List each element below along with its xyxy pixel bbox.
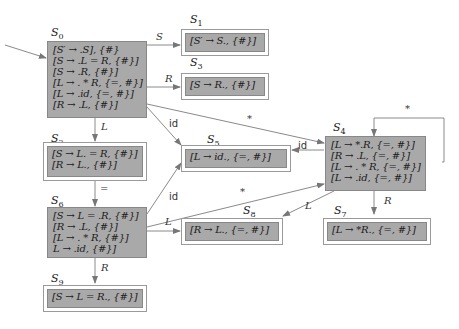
state-s8: [R → L., {=, #}] [181,218,283,245]
item: [S → .R, {#}] [53,66,141,77]
item: [S → .L = R, {#}] [53,55,141,66]
item: [S′ → .S], {#} [53,44,141,55]
state-label-s8: S8 [243,204,256,219]
item: [L → . * R, {=, #}] [53,77,141,88]
state-label-s0: S0 [51,26,64,41]
edge-label-s6-s9: R [101,262,109,273]
state-label-s1: S1 [190,13,203,28]
state-label-s4: S4 [333,121,346,136]
item: [L → *R., {=, #}] [332,224,422,235]
item: [R → L., {#}] [52,159,138,170]
state-label-s3: S3 [190,56,203,71]
state-s6: [S → L = .R, {#}] [R → .L, {#}] [L → . *… [47,207,147,258]
state-s0: [S′ → .S], {#} [S → .L = R, {#}] [S → .R… [47,41,147,118]
item: [L → id., {=, #}] [190,151,282,162]
state-s9: [S → L = R., {#}] [43,285,147,312]
item: L → .id, {#}] [53,243,141,254]
edge-label-s4-s5: id [298,140,307,151]
edge-label-s6-s5: id [169,191,178,202]
item: [L → . * R, {#}] [53,232,141,243]
item: [S′ → S., {#}] [190,35,260,46]
item: [R → .L, {=, #}] [331,150,420,161]
item: [L → .id, {=, #}] [53,88,141,99]
item: [R → .L, {#}] [53,221,141,232]
item: [R → L., {=, #}] [190,224,274,235]
item: [L → . * R, {=, #}] [331,161,420,172]
state-s2: [S → L. = R, {#}] [R → L., {#}] [43,142,147,181]
item: [S → L = .R, {#}] [53,210,141,221]
edge-label-s2-s6: = [100,183,108,194]
edge-label-s6-s8: L [165,216,172,227]
edge-s6-s5 [147,163,181,214]
edge-label-s0-s3: R [165,73,173,84]
item: [L → .id, {=, #}] [331,172,420,183]
state-label-s7: S7 [334,204,347,219]
item: [L → *.R, {=, #}] [331,139,420,150]
edge-label-s4-self: * [405,103,410,114]
state-s7: [L → *R., {=, #}] [323,218,431,245]
state-s4: [L → *.R, {=, #}] [R → .L, {=, #}] [L → … [325,136,426,191]
item: [S → R., {#}] [190,79,260,90]
edge-label-s6-s4: * [240,186,245,197]
state-s3: [S → R., {#}] [181,73,269,100]
item: [R → .L, {#}] [53,99,141,110]
edge-label-s0-s4: * [247,113,252,124]
item: [S → L = R., {#}] [52,291,138,302]
edge-label-s0-s1: S [156,31,163,42]
start-arrow [5,45,46,58]
state-s5: [L → id., {=, #}] [181,145,291,172]
edge-label-s4-s7: R [384,195,392,206]
edge-label-s4-s8: L [305,200,312,211]
state-s1: [S′ → S., {#}] [181,29,269,56]
item: [S → L. = R, {#}] [52,148,138,159]
edge-label-s0-s2: L [101,121,108,132]
edge-label-s0-s5: id [169,118,178,129]
